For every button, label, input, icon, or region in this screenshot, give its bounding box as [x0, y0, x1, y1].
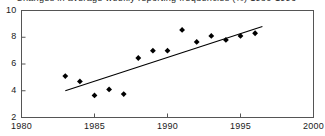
- data-point: [252, 30, 258, 36]
- data-point: [150, 48, 156, 54]
- data-point: [194, 39, 200, 45]
- y-tick-label: 6: [1, 58, 17, 68]
- axis-ticks: [22, 11, 314, 118]
- x-tick-label: 1980: [2, 121, 42, 131]
- data-point: [165, 48, 171, 54]
- x-tick-label: 1990: [148, 121, 188, 131]
- trend-line: [65, 27, 262, 91]
- data-point: [208, 33, 214, 39]
- x-tick-label: 1995: [221, 121, 261, 131]
- x-tick-label: 1985: [75, 121, 115, 131]
- data-point: [92, 93, 98, 99]
- y-tick-label: 8: [1, 31, 17, 41]
- y-tick-label: 10: [1, 5, 17, 15]
- y-tick-label: 4: [1, 85, 17, 95]
- data-point: [135, 55, 141, 61]
- plot-frame: [22, 11, 314, 118]
- data-point: [121, 91, 127, 97]
- data-point: [179, 27, 185, 33]
- data-point: [77, 78, 83, 84]
- chart-figure: Changes in average weekly reporting freq…: [0, 0, 325, 136]
- x-tick-label: 2000: [294, 121, 325, 131]
- data-point: [62, 73, 68, 79]
- data-point: [106, 87, 112, 93]
- plot-area: [0, 0, 325, 136]
